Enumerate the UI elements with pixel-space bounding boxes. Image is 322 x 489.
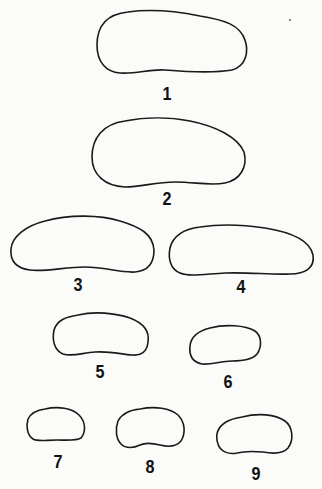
outline-shape-3: [11, 216, 154, 272]
outline-shape-8: [116, 408, 184, 448]
outline-shape-6: [190, 326, 261, 365]
shape-label-9: 9: [252, 464, 261, 483]
shape-label-2: 2: [163, 189, 172, 208]
outline-shape-9: [217, 415, 292, 454]
shape-label-8: 8: [146, 457, 155, 476]
shape-label-1: 1: [163, 84, 172, 103]
speck-mark: [289, 19, 291, 21]
outline-shape-4: [169, 225, 313, 275]
shape-label-3: 3: [74, 275, 83, 294]
outline-shape-1: [97, 11, 247, 74]
outline-shape-5: [53, 313, 148, 355]
outline-shape-2: [92, 118, 245, 187]
outline-shape-7: [27, 408, 84, 441]
shape-label-7: 7: [54, 452, 63, 471]
bean-outline-figure: [0, 0, 322, 489]
shape-label-6: 6: [224, 372, 233, 391]
shape-label-5: 5: [96, 362, 105, 381]
shape-label-4: 4: [237, 277, 246, 296]
